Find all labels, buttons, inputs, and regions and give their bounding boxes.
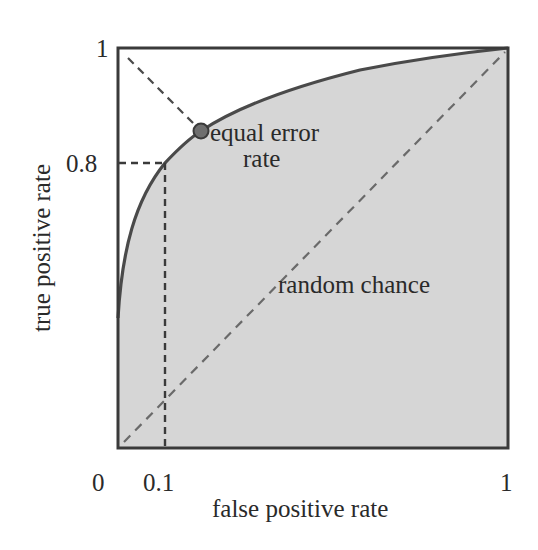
- y-axis-label: true positive rate: [28, 164, 56, 332]
- eer-label-line2: rate: [243, 146, 280, 171]
- eer-line: [128, 58, 197, 127]
- roc-chart: [0, 0, 538, 550]
- x-tick-0.1: 0.1: [143, 470, 174, 495]
- x-tick-1: 1: [500, 470, 513, 495]
- eer-label-line1: equal error: [210, 120, 319, 145]
- x-tick-0: 0: [92, 470, 105, 495]
- eer-marker: [194, 124, 209, 139]
- y-tick-0.8: 0.8: [66, 151, 97, 176]
- random-chance-label: random chance: [278, 272, 430, 297]
- y-tick-1: 1: [96, 36, 109, 61]
- x-axis-label: false positive rate: [212, 496, 388, 521]
